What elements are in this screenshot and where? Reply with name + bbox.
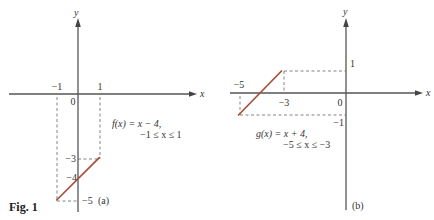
origin-label: 0 [338, 97, 343, 108]
x-axis-label: x [425, 87, 431, 98]
y-tick-neg1: −1 [333, 117, 344, 128]
panel-label-b: (b) [352, 200, 364, 212]
panel-a: y x −1 1 0 −3 −4 −5 f(x) = x − 4, −1 ≤ x… [9, 7, 205, 212]
figure-canvas: y x −1 1 0 −3 −4 −5 f(x) = x − 4, −1 ≤ x… [0, 0, 434, 220]
y-axis-arrow-icon [343, 18, 349, 27]
y-axis-label: y [73, 7, 79, 18]
y-tick-1: 1 [350, 58, 355, 69]
domain-g: −5 ≤ x ≤ −3 [283, 139, 330, 150]
origin-label: 0 [71, 96, 76, 107]
panel-label-a: (a) [98, 195, 109, 207]
panel-b: y x −5 −3 0 1 −1 g(x) = x + 4, −5 ≤ x ≤ … [230, 6, 431, 212]
x-axis-label: x [199, 88, 205, 99]
x-axis-arrow-icon [415, 90, 423, 96]
y-tick-neg5: −5 [82, 195, 93, 206]
x-axis-arrow-icon [189, 91, 197, 97]
y-axis-arrow-icon [75, 18, 81, 27]
domain-f: −1 ≤ x ≤ 1 [140, 129, 182, 140]
figure-caption: Fig. 1 [9, 200, 38, 214]
y-axis-label: y [342, 6, 348, 17]
x-tick-1: 1 [98, 81, 103, 92]
y-tick-neg3: −3 [65, 153, 76, 164]
x-tick-neg3: −3 [279, 97, 290, 108]
x-tick-neg1: −1 [52, 81, 63, 92]
x-tick-neg5: −5 [234, 79, 245, 90]
